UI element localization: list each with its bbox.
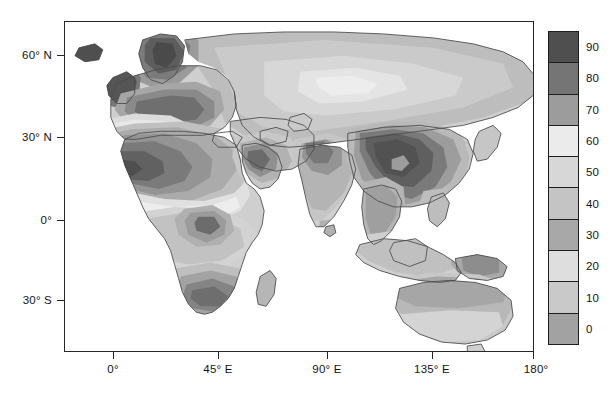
colorbar-swatch-10	[549, 282, 578, 313]
colorbar-swatch-90	[549, 32, 578, 63]
ytick-mark-2	[57, 220, 64, 221]
colorbar-label-40: 40	[586, 198, 599, 210]
xtick-label-4: 180°	[524, 363, 549, 375]
colorbar-label-90: 90	[586, 41, 599, 53]
colorbar-label-20: 20	[586, 260, 599, 272]
colorbar-label-10: 10	[586, 292, 599, 304]
xtick-label-0: 0°	[107, 363, 118, 375]
xtick-mark-4	[533, 352, 534, 359]
ytick-label-2: 0°	[41, 214, 52, 226]
xtick-label-2: 90° E	[312, 363, 341, 375]
xtick-mark-3	[432, 352, 433, 359]
colorbar-label-60: 60	[586, 135, 599, 147]
xtick-mark-1	[218, 352, 219, 359]
colorbar	[548, 31, 579, 345]
colorbar-label-70: 70	[586, 104, 599, 116]
colorbar-swatch-20	[549, 251, 578, 282]
xtick-label-1: 45° E	[203, 363, 232, 375]
colorbar-label-30: 30	[586, 229, 599, 241]
world-contour-map	[65, 22, 533, 351]
colorbar-swatch-30	[549, 220, 578, 251]
ytick-mark-0	[57, 55, 64, 56]
figure-container: 0° 45° E 90° E 135° E 180° 60° N 30° N 0…	[0, 0, 616, 404]
ytick-label-1: 30° N	[22, 131, 52, 143]
colorbar-swatch-80	[549, 63, 578, 94]
colorbar-swatch-50	[549, 157, 578, 188]
ytick-mark-1	[57, 137, 64, 138]
ytick-mark-3	[57, 300, 64, 301]
xtick-label-3: 135° E	[414, 363, 450, 375]
colorbar-swatch-0	[549, 314, 578, 344]
xtick-mark-0	[113, 352, 114, 359]
colorbar-label-80: 80	[586, 72, 599, 84]
ytick-label-3: 30° S	[23, 294, 52, 306]
colorbar-label-0: 0	[586, 323, 592, 335]
colorbar-label-50: 50	[586, 166, 599, 178]
colorbar-swatch-40	[549, 188, 578, 219]
xtick-mark-2	[327, 352, 328, 359]
ytick-label-0: 60° N	[22, 49, 52, 61]
colorbar-swatch-60	[549, 126, 578, 157]
map-plot-area	[64, 21, 534, 352]
colorbar-swatch-70	[549, 95, 578, 126]
